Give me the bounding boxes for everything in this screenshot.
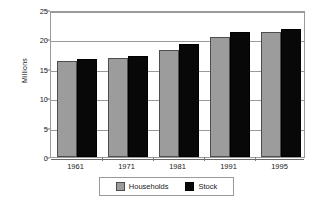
x-tick-label-1995: 1995 <box>250 162 310 171</box>
bar-stock-1961 <box>77 59 97 157</box>
bar-stock-1991 <box>230 32 250 157</box>
gridline-0 <box>51 159 304 160</box>
legend: Households Stock <box>99 177 234 196</box>
bars-layer <box>51 12 304 157</box>
legend-label-households: Households <box>129 182 169 191</box>
bar-stock-1971 <box>128 56 148 157</box>
legend-label-stock: Stock <box>198 182 217 191</box>
y-tick-label-5: 5 <box>8 124 48 133</box>
legend-entry-households: Households <box>116 182 169 191</box>
bar-households-1991 <box>210 37 230 157</box>
y-tick-label-15: 15 <box>8 65 48 74</box>
x-tick-mark-1 <box>153 157 154 161</box>
y-tick-label-0: 0 <box>8 154 48 163</box>
legend-swatch-stock-icon <box>185 182 194 191</box>
x-tick-mark-0 <box>102 157 103 161</box>
y-tick-label-10: 10 <box>8 95 48 104</box>
bar-stock-1995 <box>281 29 301 157</box>
y-tick-label-25: 25 <box>8 7 48 16</box>
x-tick-mark-2 <box>204 157 205 161</box>
bar-households-1971 <box>108 58 128 157</box>
bar-chart: Millions 0510152025 19611971198119911995… <box>0 0 322 200</box>
x-tick-mark-3 <box>255 157 256 161</box>
legend-entry-stock: Stock <box>185 182 217 191</box>
legend-swatch-households-icon <box>116 182 125 191</box>
bar-stock-1981 <box>179 44 199 157</box>
bar-households-1961 <box>57 61 77 157</box>
bar-households-1995 <box>261 32 281 157</box>
plot-area <box>50 11 305 158</box>
bar-households-1981 <box>159 50 179 157</box>
y-tick-label-20: 20 <box>8 36 48 45</box>
